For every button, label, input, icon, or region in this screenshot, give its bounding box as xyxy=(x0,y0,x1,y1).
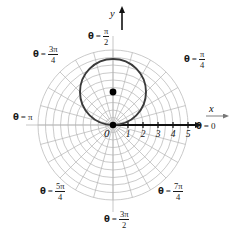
theta-symbol: θ xyxy=(158,187,164,196)
fraction-denominator: 2 xyxy=(121,220,127,229)
fraction-numerator: 3π xyxy=(119,210,130,220)
equals-sign: = xyxy=(192,55,197,64)
fraction-denominator: 4 xyxy=(57,192,63,201)
theta-symbol: θ xyxy=(13,113,19,122)
fraction-denominator: 2 xyxy=(103,37,109,46)
equals-sign: = xyxy=(204,122,209,131)
fraction-numerator: 7π xyxy=(173,182,184,192)
theta-symbol: θ xyxy=(196,122,202,131)
fraction-3pi-over-2: 3π 2 xyxy=(119,210,130,229)
polar-plot-figure: y x θ = π 2 θ = π 4 θ = 3π 4 θ = π θ xyxy=(0,0,241,235)
theta-symbol: θ xyxy=(40,187,46,196)
fraction-3pi-over-4: 3π 4 xyxy=(48,45,59,64)
equals-sign: = xyxy=(96,32,101,41)
fraction-numerator: 3π xyxy=(48,45,59,55)
angle-label-theta-pi-2: θ = π 2 xyxy=(88,27,109,46)
origin-dot xyxy=(110,122,116,128)
angle-value: π xyxy=(28,113,33,122)
x-tick-label-4: 4 xyxy=(168,129,178,139)
fraction-5pi-over-4: 5π 4 xyxy=(55,182,66,201)
fraction-denominator: 4 xyxy=(199,60,205,69)
theta-symbol: θ xyxy=(184,55,190,64)
angle-value: 0 xyxy=(211,122,216,131)
angle-label-theta-0: θ = 0 xyxy=(196,122,215,131)
angle-label-theta-pi-4: θ = π 4 xyxy=(184,50,205,69)
circle-center-dot xyxy=(110,89,117,96)
polar-grid-svg xyxy=(0,0,241,235)
x-tick-label-5: 5 xyxy=(183,129,193,139)
fraction-denominator: 4 xyxy=(175,192,181,201)
fraction-numerator: π xyxy=(199,50,205,60)
x-tick-label-0: 0 xyxy=(104,127,110,139)
fraction-pi-over-4: π 4 xyxy=(199,50,205,69)
angle-label-theta-5pi-4: θ = 5π 4 xyxy=(40,182,65,201)
equals-sign: = xyxy=(112,215,117,224)
angle-label-theta-7pi-4: θ = 7π 4 xyxy=(158,182,183,201)
x-axis-label: x xyxy=(209,104,214,115)
x-tick-label-2: 2 xyxy=(138,129,148,139)
equals-sign: = xyxy=(41,50,46,59)
fraction-pi-over-2: π 2 xyxy=(103,27,109,46)
x-tick-label-3: 3 xyxy=(153,129,163,139)
fraction-numerator: π xyxy=(103,27,109,37)
fraction-7pi-over-4: 7π 4 xyxy=(173,182,184,201)
theta-symbol: θ xyxy=(88,32,94,41)
y-axis-label: y xyxy=(110,9,115,20)
theta-symbol: θ xyxy=(33,50,39,59)
fraction-denominator: 4 xyxy=(50,55,56,64)
angle-label-theta-3pi-2: θ = 3π 2 xyxy=(104,210,129,229)
equals-sign: = xyxy=(48,187,53,196)
equals-sign: = xyxy=(21,113,26,122)
equals-sign: = xyxy=(166,187,171,196)
theta-symbol: θ xyxy=(104,215,110,224)
x-tick-label-1: 1 xyxy=(123,129,133,139)
angle-label-theta-pi: θ = π xyxy=(13,113,32,122)
fraction-numerator: 5π xyxy=(55,182,66,192)
angle-label-theta-3pi-4: θ = 3π 4 xyxy=(33,45,58,64)
